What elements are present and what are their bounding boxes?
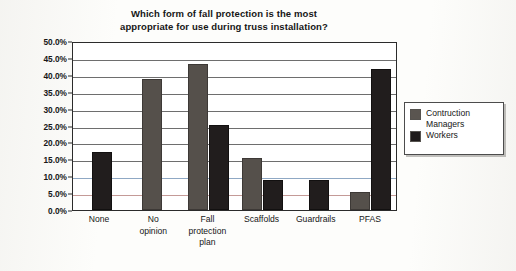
bar-fall-protection-plan-workers <box>209 125 229 210</box>
x-axis-tick-labels: NoneNo opinionFall protection planScaffo… <box>72 214 397 266</box>
x-axis-tick-label: PFAS <box>359 214 381 226</box>
legend: ContructionManagers Workers <box>404 102 504 155</box>
bar-pfas-workers <box>371 69 391 210</box>
y-axis-tick-label: 50.0% <box>43 37 67 47</box>
x-axis-tick-label: No opinion <box>139 214 167 237</box>
legend-item-workers: Workers <box>410 130 499 142</box>
y-axis-tick-label: 25.0% <box>43 122 67 132</box>
legend-swatch-managers-icon <box>410 109 421 120</box>
bar-none-workers <box>92 152 112 210</box>
chart-title: Which form of fall protection is the mos… <box>64 8 384 33</box>
bar-pfas-managers <box>350 192 370 210</box>
legend-label-managers: ContructionManagers <box>426 108 470 129</box>
y-axis-tick-label: 15.0% <box>43 155 67 165</box>
legend-label-workers: Workers <box>426 130 458 141</box>
chart-title-line-2: appropriate for use during truss install… <box>64 21 384 34</box>
y-axis-tick-label: 10.0% <box>43 172 67 182</box>
y-axis-tick-label: 20.0% <box>43 138 67 148</box>
x-axis-tick-label: None <box>89 214 110 226</box>
bar-fall-protection-plan-managers <box>188 64 208 210</box>
bar-chart: Which form of fall protection is the mos… <box>0 0 516 271</box>
y-axis-tick-label: 0.0% <box>48 206 67 216</box>
bars-layer <box>73 43 396 210</box>
y-axis-tick-label: 35.0% <box>43 88 67 98</box>
chart-title-line-1: Which form of fall protection is the mos… <box>64 8 384 21</box>
bar-no-opinion-managers <box>142 79 162 210</box>
bar-scaffolds-managers <box>242 158 262 210</box>
y-axis-tick-label: 5.0% <box>48 189 67 199</box>
y-axis-tick-label: 40.0% <box>43 71 67 81</box>
legend-item-managers: ContructionManagers <box>410 108 499 129</box>
y-axis-tick-label: 30.0% <box>43 105 67 115</box>
y-axis-tick-label: 45.0% <box>43 54 67 64</box>
legend-swatch-workers-icon <box>410 131 421 142</box>
x-axis-tick-label: Fall protection plan <box>189 214 227 249</box>
bar-scaffolds-workers <box>263 180 283 210</box>
x-axis-tick-label: Guardrails <box>296 214 336 226</box>
x-axis-tick-label: Scaffolds <box>244 214 279 226</box>
plot-area <box>72 42 397 211</box>
bar-guardrails-workers <box>309 180 329 210</box>
y-axis-tick-labels: 50.0%45.0%40.0%35.0%30.0%25.0%20.0%15.0%… <box>0 42 72 211</box>
